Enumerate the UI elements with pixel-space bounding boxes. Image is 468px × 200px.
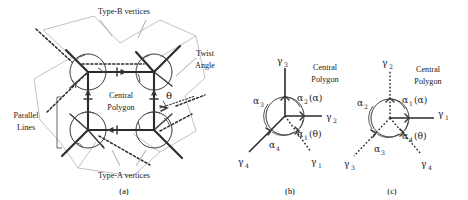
panel-a-edge-ticks xyxy=(84,68,158,134)
panel-c-gamma4-sub: 4 xyxy=(428,164,432,171)
panel-b-central-polygon-line1: Central xyxy=(313,63,338,72)
panel-c-alpha1-label: α xyxy=(402,94,408,105)
panel-b-gamma1-sub: 1 xyxy=(318,162,322,169)
panel-b-alpha3-label: α xyxy=(253,95,259,106)
panel-c-central-polygon-line2: Polygon xyxy=(414,77,441,86)
twist-angle-symbol: θ xyxy=(166,90,172,101)
panel-a-central-polygon xyxy=(88,72,154,130)
panel-a: Type-B vertices Type-A vertices Central … xyxy=(13,7,215,196)
panel-c-gamma4-label: γ xyxy=(421,158,427,169)
panel-c-gamma1-sub: 1 xyxy=(445,114,449,121)
label-central-polygon-line2: Polygon xyxy=(107,103,134,112)
panel-b-alpha1-sub: 1 xyxy=(304,134,308,141)
panel-c-central-polygon-line1: Central xyxy=(416,65,441,74)
panel-c-alpha2-sub: 2 xyxy=(364,103,368,110)
panel-b-alpha2-paren: (α) xyxy=(309,92,322,103)
figure-root: Type-B vertices Type-A vertices Central … xyxy=(0,0,468,200)
label-twist-angle-line2: Angle xyxy=(195,61,215,70)
panel-b-alpha2-label: α xyxy=(297,92,303,103)
caption-c: (c) xyxy=(387,187,397,196)
label-type-a-vertices: Type-A vertices xyxy=(98,171,150,180)
panel-b-gamma2-sub: 2 xyxy=(333,117,337,124)
panel-b-alpha4-sub: 4 xyxy=(276,145,280,152)
panel-b-alpha-labels: α 2 (α) α 3 α 4 α 1 (θ) xyxy=(253,92,322,152)
panel-c: γ 2 γ 1 γ 3 γ 4 α 1 (α) α 2 α 3 α 4 (θ) … xyxy=(344,57,449,196)
label-parallel-lines-line2: Lines xyxy=(17,123,35,132)
panel-b-gamma-labels: γ 3 γ 2 γ 4 γ 1 xyxy=(238,55,337,169)
panel-c-gamma2-label: γ xyxy=(382,57,388,68)
label-central-polygon-line1: Central xyxy=(109,91,134,100)
panel-b-gamma2-label: γ xyxy=(326,111,332,122)
panel-c-alpha4-paren: (θ) xyxy=(414,130,427,141)
panel-b-gamma4-label: γ xyxy=(238,156,244,167)
panel-b-alpha3-sub: 3 xyxy=(260,101,264,108)
panel-a-angle-markers xyxy=(72,55,170,148)
panel-c-gamma2-sub: 2 xyxy=(389,63,393,70)
caption-b: (b) xyxy=(285,187,295,196)
panel-b-gamma3-label: γ xyxy=(277,55,283,66)
panel-c-alpha3-sub: 3 xyxy=(381,149,385,156)
panel-b-alpha4-label: α xyxy=(269,139,275,150)
panel-c-alpha4-label: α xyxy=(402,130,408,141)
panel-c-gamma-labels: γ 2 γ 1 γ 3 γ 4 xyxy=(344,57,449,171)
panel-b-gamma4-sub: 4 xyxy=(245,162,249,169)
caption-a: (a) xyxy=(119,187,129,196)
panel-b-central-polygon-line2: Polygon xyxy=(311,75,338,84)
panel-c-alpha3-label: α xyxy=(374,143,380,154)
label-twist-angle-line1: Twist xyxy=(196,49,215,58)
panel-c-alpha-labels: α 1 (α) α 2 α 3 α 4 (θ) xyxy=(357,94,427,156)
panel-c-gamma3-sub: 3 xyxy=(351,164,355,171)
panel-b-gamma3-sub: 3 xyxy=(284,61,288,68)
panel-c-alpha4-sub: 4 xyxy=(409,136,413,143)
panel-a-parallel-brace xyxy=(57,97,62,148)
panel-c-alpha1-paren: (α) xyxy=(414,94,427,105)
panel-b-alpha1-paren: (θ) xyxy=(309,128,322,139)
panel-c-gamma3-label: γ xyxy=(344,158,350,169)
panel-c-alpha2-label: α xyxy=(357,97,363,108)
label-parallel-lines-line1: Parallel xyxy=(13,111,39,120)
panel-c-alpha1-sub: 1 xyxy=(409,100,413,107)
panel-b-gamma1-label: γ xyxy=(311,156,317,167)
panel-b: γ 3 γ 2 γ 4 γ 1 α 2 (α) α 3 α 4 α 1 (θ) … xyxy=(238,55,339,196)
label-type-b-vertices: Type-B vertices xyxy=(98,7,150,16)
panel-b-alpha2-sub: 2 xyxy=(304,98,308,105)
figure-canvas: Type-B vertices Type-A vertices Central … xyxy=(0,0,468,200)
panel-c-gamma1-label: γ xyxy=(438,108,444,119)
panel-b-alpha1-label: α xyxy=(297,128,303,139)
